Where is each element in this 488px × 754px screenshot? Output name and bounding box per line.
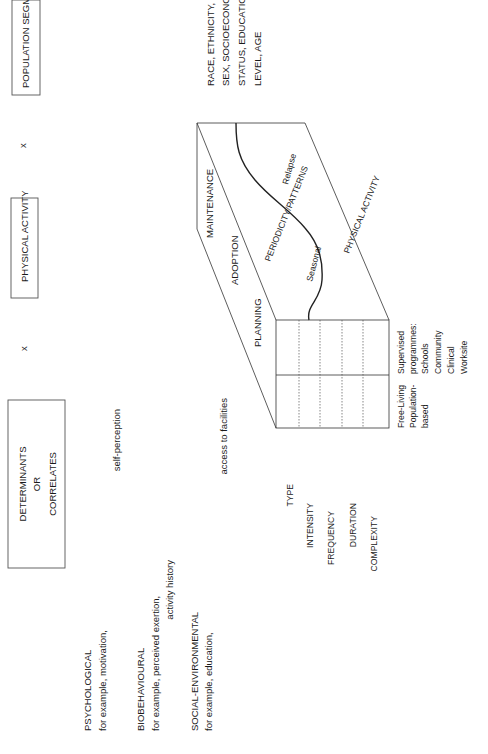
determinant-example: access to facilities — [218, 398, 229, 475]
setting-line: Community — [433, 330, 443, 374]
determinant-psychological: PSYCHOLOGICAL for example, motivation, s… — [82, 409, 122, 731]
stage-adoption: ADOPTION — [229, 235, 240, 285]
population-segments-label: POPULATION SEGMENTS — [20, 0, 31, 88]
population-detail-line: SEX, SOCIOECONOMIC — [220, 0, 231, 86]
diagram-canvas: POPULATION SEGMENTS x PHYSICAL ACTIVITY … — [0, 0, 488, 754]
population-detail: RACE, ETHNICITY, SEX, SOCIOECONOMIC STAT… — [205, 0, 263, 86]
determinant-title: SOCIAL-ENVIRONMENTAL — [189, 612, 200, 731]
determinant-example: for example, education, — [203, 632, 214, 731]
determinant-social-environmental: SOCIAL-ENVIRONMENTAL for example, educat… — [189, 398, 229, 731]
setting-free-living: Free-Living Population- based — [396, 384, 430, 428]
operator-x-left: x — [18, 346, 29, 351]
setting-line: Free-Living — [396, 385, 406, 428]
dimension-duration: DURATION — [348, 503, 358, 547]
determinant-biobehavioural: BIOBEHAVIOURAL for example, perceived ex… — [135, 560, 175, 731]
operator-x-right: x — [17, 143, 28, 148]
determinant-example: activity history — [164, 560, 175, 620]
population-detail-line: RACE, ETHNICITY, — [205, 3, 216, 86]
determinants-line-3: CORRELATES — [47, 452, 58, 516]
physical-activity-label: PHYSICAL ACTIVITY — [19, 190, 30, 282]
determinants-line-1: DETERMINANTS — [17, 447, 28, 522]
cube-right-edge — [305, 123, 389, 320]
setting-line: based — [420, 404, 430, 428]
determinants-box: DETERMINANTS OR CORRELATES — [8, 400, 65, 568]
cube-physical-activity-label: PHYSICAL ACTIVITY — [342, 174, 382, 255]
setting-supervised: Supervised programmes: Schools Community… — [396, 323, 469, 374]
seasonal-label: Seasonal — [304, 245, 323, 282]
cube-front-face — [276, 320, 389, 428]
dimension-intensity: INTENSITY — [305, 503, 315, 548]
setting-line: Population- — [408, 384, 418, 428]
dimension-frequency: FREQUENCY — [326, 511, 336, 565]
setting-line: Schools — [420, 343, 430, 374]
determinant-example: self-perception — [111, 409, 122, 471]
determinant-title: BIOBEHAVIOURAL — [135, 648, 146, 731]
setting-line: Clinical — [446, 346, 456, 374]
physical-activity-box: PHYSICAL ACTIVITY — [11, 190, 38, 298]
stage-planning: PLANNING — [252, 298, 263, 347]
population-detail-line: STATUS, EDUCATIONAL — [236, 0, 247, 86]
setting-line: Supervised — [396, 331, 406, 374]
dimension-complexity: COMPLEXITY — [369, 516, 379, 572]
dimension-type: TYPE — [285, 484, 295, 507]
determinant-example: for example, motivation, — [97, 630, 108, 731]
setting-line: Worksite — [459, 341, 469, 374]
setting-line: programmes: — [408, 323, 418, 374]
population-detail-line: LEVEL, AGE — [252, 32, 263, 86]
activity-cube: PLANNING ADOPTION MAINTENANCE PERIODICIT… — [197, 123, 469, 571]
determinant-title: PSYCHOLOGICAL — [82, 650, 93, 731]
stage-maintenance: MAINTENANCE — [204, 169, 215, 238]
determinants-line-2: OR — [31, 477, 42, 491]
determinant-example: for example, perceived exertion, — [150, 596, 161, 731]
population-segments-box: POPULATION SEGMENTS — [12, 0, 40, 95]
